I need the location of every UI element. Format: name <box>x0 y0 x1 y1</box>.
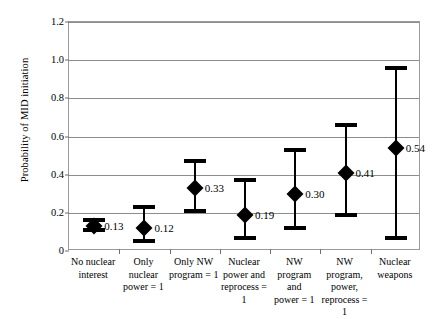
data-point-marker <box>387 139 404 156</box>
y-tick-mark <box>65 98 69 99</box>
y-axis-title: Probability of MID initiation <box>18 0 32 250</box>
data-point-marker <box>287 185 304 202</box>
gridline <box>69 22 419 23</box>
gridline <box>69 60 419 61</box>
whisker-cap-lower <box>385 236 407 240</box>
whisker-cap-lower <box>184 209 206 213</box>
y-tick-mark <box>65 174 69 175</box>
data-point-value-label: 0.33 <box>205 183 224 194</box>
y-tick-mark <box>65 212 69 213</box>
x-category-label: Only nuclear power = 1 <box>118 256 168 294</box>
whisker-cap-lower <box>284 226 306 230</box>
x-tick-mark <box>170 249 171 254</box>
x-category-label: NW program and power = 1 <box>269 256 319 306</box>
data-point-value-label: 0.12 <box>154 223 173 234</box>
whisker-cap-lower <box>335 213 357 217</box>
data-point-marker <box>186 180 203 197</box>
y-tick-mark <box>65 60 69 61</box>
data-point-marker <box>237 206 254 223</box>
whisker-cap-upper <box>335 123 357 127</box>
x-tick-mark <box>320 249 321 254</box>
whisker-cap-lower <box>234 236 256 240</box>
x-tick-mark <box>220 249 221 254</box>
data-point-value-label: 0.30 <box>305 188 324 199</box>
whisker-cap-upper <box>184 159 206 163</box>
x-axis-category-labels: No nuclear interestOnly nuclear power = … <box>68 256 420 313</box>
y-tick-label: 0.2 <box>51 208 64 219</box>
data-point-value-label: 0.19 <box>255 209 274 220</box>
x-tick-mark <box>270 249 271 254</box>
gridline <box>69 137 419 138</box>
x-category-label: Nuclear weapons <box>370 256 420 281</box>
whisker-cap-upper <box>234 178 256 182</box>
data-point-value-label: 0.54 <box>406 142 425 153</box>
y-tick-mark <box>65 136 69 137</box>
whisker-cap-lower <box>133 239 155 243</box>
x-category-label: Nuclear power and reprocess = 1 <box>219 256 269 306</box>
data-point-value-label: 0.41 <box>356 167 375 178</box>
y-tick-label: 0 <box>59 246 64 257</box>
plot-area: 00.20.40.60.81.01.2 0.130.120.330.190.30… <box>68 21 420 250</box>
x-tick-mark <box>119 249 120 254</box>
y-tick-label: 0.4 <box>51 169 64 180</box>
y-tick-label: 1.0 <box>51 55 64 66</box>
whisker-cap-upper <box>385 66 407 70</box>
data-point-value-label: 0.13 <box>104 221 123 232</box>
x-tick-mark <box>371 249 372 254</box>
y-tick-mark <box>65 22 69 23</box>
whisker-cap-upper <box>133 205 155 209</box>
x-category-label: NW program, power, reprocess = 1 <box>319 256 369 319</box>
data-point-marker <box>136 220 153 237</box>
y-tick-label: 0.6 <box>51 131 64 142</box>
x-category-label: Only NW program = 1 <box>169 256 219 281</box>
y-tick-label: 1.2 <box>51 17 64 28</box>
whisker-cap-upper <box>284 148 306 152</box>
y-tick-label: 0.8 <box>51 93 64 104</box>
data-point-marker <box>337 164 354 181</box>
gridline <box>69 98 419 99</box>
x-category-label: No nuclear interest <box>68 256 118 281</box>
y-tick-mark <box>65 251 69 252</box>
